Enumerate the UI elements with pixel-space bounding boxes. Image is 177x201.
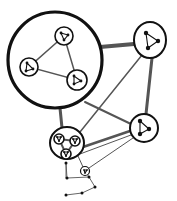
edge-A-C: [85, 102, 131, 124]
edge-A-B: [100, 44, 134, 47]
cluster-ring: [81, 167, 90, 176]
polygon-vertex: [65, 194, 68, 197]
cluster-ring: [134, 22, 166, 58]
polygon-vertex: [81, 192, 84, 195]
cluster-right-node: [130, 114, 158, 142]
subcluster-D3: [61, 149, 71, 159]
cluster-small-node: [81, 167, 90, 176]
edge-B-C: [146, 58, 152, 114]
cluster-ring: [130, 114, 158, 142]
subcluster-D2: [70, 136, 80, 146]
cluster-top-right-node: [134, 22, 166, 58]
polygon-path: [66, 163, 95, 195]
cluster-large-cluster: [8, 12, 102, 108]
subcluster-A3: [67, 70, 87, 90]
edge-D-E: [78, 156, 83, 167]
cluster-bottom-cluster: [50, 127, 84, 159]
subcluster-D1: [54, 134, 64, 144]
graph-diagram: [0, 0, 177, 201]
polygon-vertex: [94, 186, 97, 189]
subcluster-A2: [20, 58, 38, 76]
polygon-vertex: [88, 176, 91, 179]
polygon-vertex: [66, 177, 69, 180]
subcluster-A1: [55, 27, 73, 45]
polygon-vertex: [65, 162, 68, 165]
cluster-ring: [8, 12, 102, 108]
edge-A-D: [60, 108, 62, 128]
